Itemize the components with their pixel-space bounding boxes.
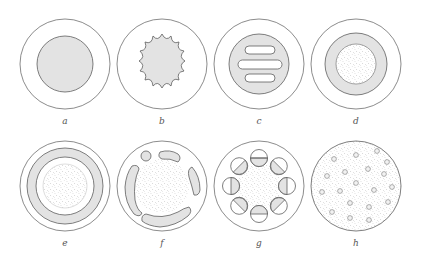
stippled-core [336, 44, 376, 84]
panel-label-c: c [256, 116, 261, 126]
panel-d: d [311, 19, 401, 126]
panel-label-b: b [159, 116, 165, 126]
vesicle-right [279, 178, 296, 195]
shaded-granule [141, 151, 151, 161]
panel-g: g [214, 141, 304, 248]
vesicle-top [251, 150, 268, 167]
panel-label-d: d [353, 116, 359, 126]
vesicle-left [223, 178, 240, 195]
vesicle-bottom-right [270, 197, 287, 214]
panel-label-a: a [62, 116, 67, 126]
vesicle-bottom [251, 206, 268, 223]
stippled-core [135, 159, 189, 213]
panel-label-e: e [62, 238, 67, 248]
vesicle-top-right [270, 158, 287, 175]
panel-a: a [20, 19, 110, 126]
white-bar-bottom [245, 74, 275, 82]
shaded-core [37, 36, 93, 92]
white-bar-middle [238, 60, 282, 69]
panel-c: c [214, 19, 304, 126]
panel-b: b [117, 19, 207, 126]
panel-label-g: g [256, 238, 262, 248]
panel-h: h [311, 141, 401, 248]
cell-diagram-figure: a b c d e f [0, 0, 423, 261]
stippled-core [43, 164, 87, 208]
panel-label-h: h [353, 238, 359, 248]
vesicle-bottom-left [231, 197, 248, 214]
panel-label-f: f [159, 238, 165, 248]
star-shaped-core [139, 34, 185, 88]
panel-f: f [117, 141, 207, 248]
white-bar-top [245, 46, 275, 54]
vesicle-top-left [231, 158, 248, 175]
panel-e: e [20, 141, 110, 248]
